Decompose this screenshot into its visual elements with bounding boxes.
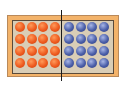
orange-ball	[38, 58, 48, 68]
orange-ball	[50, 34, 60, 44]
blue-ball	[76, 22, 86, 32]
blue-ball	[76, 34, 86, 44]
blue-ball	[64, 46, 74, 56]
orange-ball-grid	[15, 22, 61, 69]
blue-ball-grid	[64, 22, 110, 69]
orange-ball	[50, 58, 60, 68]
orange-ball	[50, 22, 60, 32]
blue-ball	[64, 58, 74, 68]
orange-ball	[15, 58, 25, 68]
dividing-line	[61, 10, 62, 81]
orange-ball	[15, 22, 25, 32]
orange-ball	[38, 22, 48, 32]
orange-ball	[50, 46, 60, 56]
blue-ball	[64, 34, 74, 44]
blue-ball	[64, 22, 74, 32]
blue-ball	[87, 34, 97, 44]
orange-ball	[38, 46, 48, 56]
blue-ball	[99, 22, 109, 32]
orange-ball	[27, 58, 37, 68]
orange-ball	[38, 34, 48, 44]
blue-ball	[76, 46, 86, 56]
orange-ball	[27, 46, 37, 56]
blue-ball	[87, 22, 97, 32]
orange-ball	[27, 22, 37, 32]
blue-ball	[99, 46, 109, 56]
orange-ball	[15, 34, 25, 44]
blue-ball	[99, 58, 109, 68]
blue-ball	[99, 34, 109, 44]
orange-ball	[15, 46, 25, 56]
blue-ball	[87, 46, 97, 56]
blue-ball	[87, 58, 97, 68]
orange-ball	[27, 34, 37, 44]
blue-ball	[76, 58, 86, 68]
